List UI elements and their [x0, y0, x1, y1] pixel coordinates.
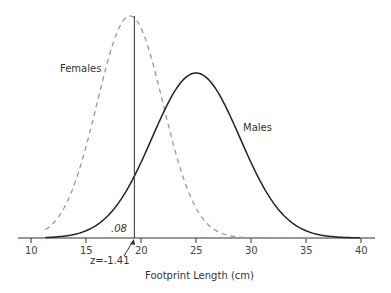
- x-tick-label: 30: [245, 245, 258, 256]
- males-label: Males: [243, 122, 272, 133]
- males-curve: [45, 73, 360, 238]
- females-label: Females: [60, 63, 101, 74]
- females-curve: [45, 16, 360, 238]
- x-tick-label: 25: [190, 245, 203, 256]
- x-axis-ticks: 10152025303540: [25, 238, 368, 256]
- z-score-label: z=-1.41: [90, 255, 130, 266]
- x-axis-title: Footprint Length (cm): [145, 270, 254, 281]
- x-tick-label: 10: [25, 245, 38, 256]
- x-tick-label: 40: [355, 245, 368, 256]
- x-tick-label: 35: [300, 245, 313, 256]
- x-tick-label: 20: [135, 245, 148, 256]
- normal-distribution-chart: 10152025303540 Females Males .08 z=-1.41…: [0, 0, 391, 293]
- area-label: .08: [111, 223, 127, 234]
- arrowhead-icon: [130, 239, 135, 245]
